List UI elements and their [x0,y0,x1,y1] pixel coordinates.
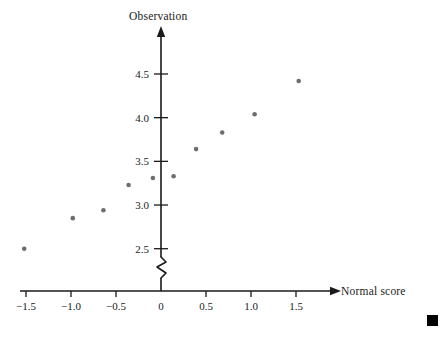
x-axis-title: Normal score [341,285,406,297]
x-tick-label: 0.5 [199,300,213,312]
data-point [296,79,301,84]
axes-group [20,26,341,295]
y-tick-label: 2.5 [135,243,149,255]
data-point [101,208,106,213]
x-tick-label: −1.0 [61,300,81,312]
x-tick-label: 1.0 [244,300,258,312]
normal-probability-plot-figure: Observation Normal score −1.5−1.0−0.500.… [0,0,445,338]
data-point [126,183,131,188]
y-axis-arrowhead [157,26,165,37]
y-axis-title: Observation [129,10,187,22]
y-axis-break-zigzag [157,257,166,278]
data-point [151,176,156,181]
data-point [220,130,225,135]
data-point [252,112,257,117]
y-tick-label: 4.0 [135,112,149,124]
x-axis-arrowhead [330,287,341,295]
corner-black-square-marker [427,315,438,326]
x-tick-label: −0.5 [106,300,126,312]
x-tick-label: 1.5 [289,300,303,312]
y-tick-label: 3.0 [135,199,149,211]
data-point [22,246,27,251]
x-tick-label: −1.5 [16,300,36,312]
data-point [194,147,199,152]
x-tick-label: 0 [158,300,164,312]
data-point [171,174,176,179]
data-point [71,216,76,221]
y-tick-label: 3.5 [135,155,149,167]
y-tick-label: 4.5 [135,68,149,80]
